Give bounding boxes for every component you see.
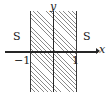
x-axis-label: x — [99, 44, 105, 55]
math-figure-number-line: y x −1 1 S S — [0, 0, 109, 92]
set-label-right: S — [83, 31, 91, 42]
x-axis-line — [5, 51, 98, 53]
x-tick-label-negative-one: −1 — [14, 55, 30, 66]
x-tick-label-positive-one: 1 — [72, 55, 79, 66]
set-label-left: S — [13, 31, 21, 42]
y-axis-label: y — [50, 1, 56, 12]
